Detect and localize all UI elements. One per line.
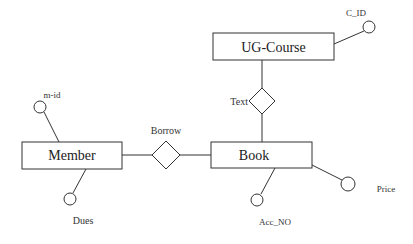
attribute-label: Acc_NO — [259, 217, 291, 227]
attribute-circle — [341, 177, 355, 191]
attribute-circle — [363, 21, 375, 33]
entity-book[interactable]: Book — [211, 142, 312, 168]
attribute-label: C_ID — [346, 8, 367, 18]
relationship-borrow[interactable]: Borrow — [151, 125, 182, 169]
attribute-circle — [251, 194, 263, 206]
entity-ug-course[interactable]: UG-Course — [213, 33, 334, 60]
entity-label: Member — [48, 148, 96, 163]
connector-member-dues — [73, 169, 86, 193]
attribute-circle — [34, 101, 46, 113]
attribute-c-id[interactable]: C_ID — [346, 8, 375, 33]
attribute-circle — [64, 193, 76, 205]
attribute-label: Price — [377, 184, 396, 194]
entity-label: Book — [239, 148, 269, 163]
attribute-price[interactable]: Price — [341, 177, 395, 194]
relationship-label: Text — [230, 96, 248, 107]
er-diagram: UG-Course Book Member Text Borrow C_ID m… — [0, 0, 413, 244]
connector-book-price — [312, 165, 342, 180]
connector-book-accno — [261, 168, 275, 194]
attribute-label: m-id — [44, 90, 61, 100]
attribute-label: Dues — [73, 215, 94, 226]
er-diagram-canvas: UG-Course Book Member Text Borrow C_ID m… — [0, 0, 413, 244]
relationship-diamond — [152, 141, 180, 169]
connector-ugcourse-cid — [334, 31, 364, 44]
attribute-acc-no[interactable]: Acc_NO — [251, 194, 291, 227]
relationship-diamond — [249, 88, 275, 114]
entity-member[interactable]: Member — [22, 142, 122, 169]
entity-label: UG-Course — [241, 40, 306, 55]
connector-mid-member — [44, 112, 59, 142]
relationship-label: Borrow — [151, 125, 182, 136]
attribute-dues[interactable]: Dues — [64, 193, 93, 226]
attribute-m-id[interactable]: m-id — [34, 90, 61, 113]
relationship-text[interactable]: Text — [230, 88, 275, 114]
